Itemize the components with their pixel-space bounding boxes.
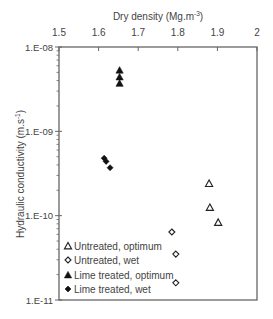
scatter-chart: Dry density (Mg.m-3) 1.51.61.71.81.92 1.… <box>0 0 273 319</box>
x-tick-label: 1.6 <box>92 27 106 38</box>
data-point-open-triangle-icon <box>206 204 213 210</box>
x-tick-label: 2 <box>254 27 260 38</box>
x-axis-title: Dry density (Mg.m-3) <box>113 10 203 22</box>
data-point-open-diamond-icon <box>169 229 175 235</box>
data-point-filled-triangle-icon <box>116 73 123 79</box>
data-point-filled-triangle-icon <box>116 67 123 73</box>
legend-open-diamond-icon <box>65 257 71 263</box>
y-tick-label: 1.E-08 <box>25 42 53 53</box>
y-tick-label: 1.E-11 <box>26 295 53 306</box>
y-tick-label: 1.E-10 <box>25 210 53 221</box>
data-points <box>101 67 222 286</box>
data-point-filled-triangle-icon <box>116 80 123 86</box>
y-axis-title: Hydraulic conductivity (m.s-1) <box>14 110 26 238</box>
legend-filled-triangle-icon <box>64 271 71 277</box>
legend-label: Untreated, wet <box>74 255 139 266</box>
legend-label: Lime treated, wet <box>74 284 151 295</box>
x-tick-label: 1.9 <box>210 27 224 38</box>
y-tick-label: 1.E-09 <box>25 126 53 137</box>
data-point-open-triangle-icon <box>205 180 212 186</box>
data-point-open-diamond-icon <box>173 251 179 257</box>
legend-label: Untreated, optimum <box>74 241 162 252</box>
x-tick-label: 1.8 <box>171 27 185 38</box>
x-tick-label: 1.5 <box>52 27 66 38</box>
data-point-filled-diamond-icon <box>107 165 113 171</box>
legend: Untreated, optimumUntreated, wetLime tre… <box>64 241 173 295</box>
data-point-open-triangle-icon <box>215 219 222 225</box>
legend-open-triangle-icon <box>64 242 71 248</box>
legend-label: Lime treated, optimum <box>74 270 174 281</box>
legend-filled-diamond-icon <box>65 286 71 292</box>
data-point-open-diamond-icon <box>173 280 179 286</box>
y-axis-ticks: 1.E-081.E-091.E-101.E-11 <box>25 42 62 306</box>
x-tick-label: 1.7 <box>131 27 145 38</box>
